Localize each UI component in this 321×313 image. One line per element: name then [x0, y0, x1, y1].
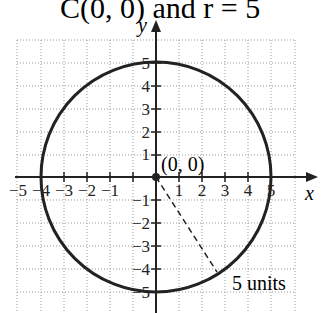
x-tick-label: −1 [101, 181, 119, 200]
y-tick-label: 2 [142, 123, 151, 142]
y-tick-label: 4 [142, 77, 151, 96]
title: C(0, 0) and r = 5 [60, 0, 260, 25]
x-tick-label: 3 [221, 181, 230, 200]
y-tick-label: 3 [142, 100, 151, 119]
x-tick-label: 1 [175, 181, 184, 200]
x-tick-label: −5 [9, 181, 27, 200]
radius-label: 5 units [232, 272, 286, 294]
y-tick-label: −5 [132, 283, 150, 302]
x-axis-label: x [304, 182, 314, 204]
radius-line [156, 177, 217, 272]
x-tick-label: −3 [55, 181, 73, 200]
x-arrow-icon [306, 172, 318, 182]
x-tick-label: −4 [32, 181, 51, 200]
y-tick-label: −4 [132, 260, 151, 279]
x-tick-label: 4 [244, 181, 253, 200]
y-tick-label: 5 [142, 54, 151, 73]
center-label: (0, 0) [161, 153, 204, 176]
y-axis-label: y [136, 14, 147, 37]
y-tick-label: −3 [132, 237, 150, 256]
y-tick-label: −2 [132, 214, 150, 233]
y-tick-label: 1 [142, 145, 151, 164]
circle-diagram: C(0, 0) and r = 5 −5 −4 −3 −2 −1 [0, 0, 321, 313]
x-tick-label: −2 [78, 181, 96, 200]
y-tick-label: −1 [132, 191, 150, 210]
x-tick-label: 2 [198, 181, 207, 200]
x-tick-label: 5 [267, 181, 276, 200]
